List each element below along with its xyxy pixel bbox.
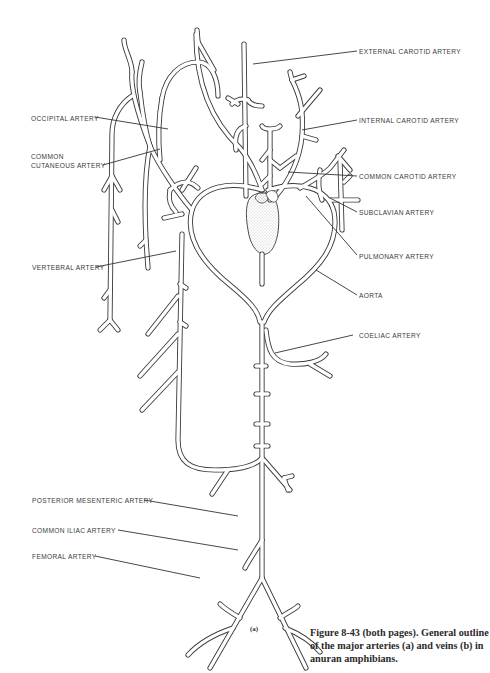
label-aorta: AORTA [359,291,383,300]
label-external-carotid-artery: EXTERNAL CAROTID ARTERY [359,47,461,56]
vessel-lumens [100,30,358,668]
label-pulmonary-artery: PULMONARY ARTERY [359,252,434,261]
label-internal-carotid-artery: INTERNAL CAROTID ARTERY [359,116,459,125]
figure-caption: Figure 8-43 (both pages). General outlin… [310,626,490,666]
label-femoral-artery: FEMORAL ARTERY [32,552,97,561]
label-occipital-artery: OCCIPITAL ARTERY [31,114,99,123]
label-vertebral-artery: VERTEBRAL ARTERY [32,263,104,272]
label-common-iliac-artery: COMMON ILIAC ARTERY [32,526,116,535]
label-common-carotid-artery: COMMON CAROTID ARTERY [359,172,457,181]
heart [246,191,278,284]
vessel-outlines [100,30,358,668]
label-coeliac-artery: COELIAC ARTERY [359,331,421,340]
label-common-cutaneous-artery: COMMON CUTANEOUS ARTERY [31,152,105,170]
label-posterior-mesenteric-artery: POSTERIOR MESENTERIC ARTERY [32,496,153,505]
figure-part-label: (a) [250,625,258,633]
label-subclavian-artery: SUBCLAVIAN ARTERY [359,208,434,217]
